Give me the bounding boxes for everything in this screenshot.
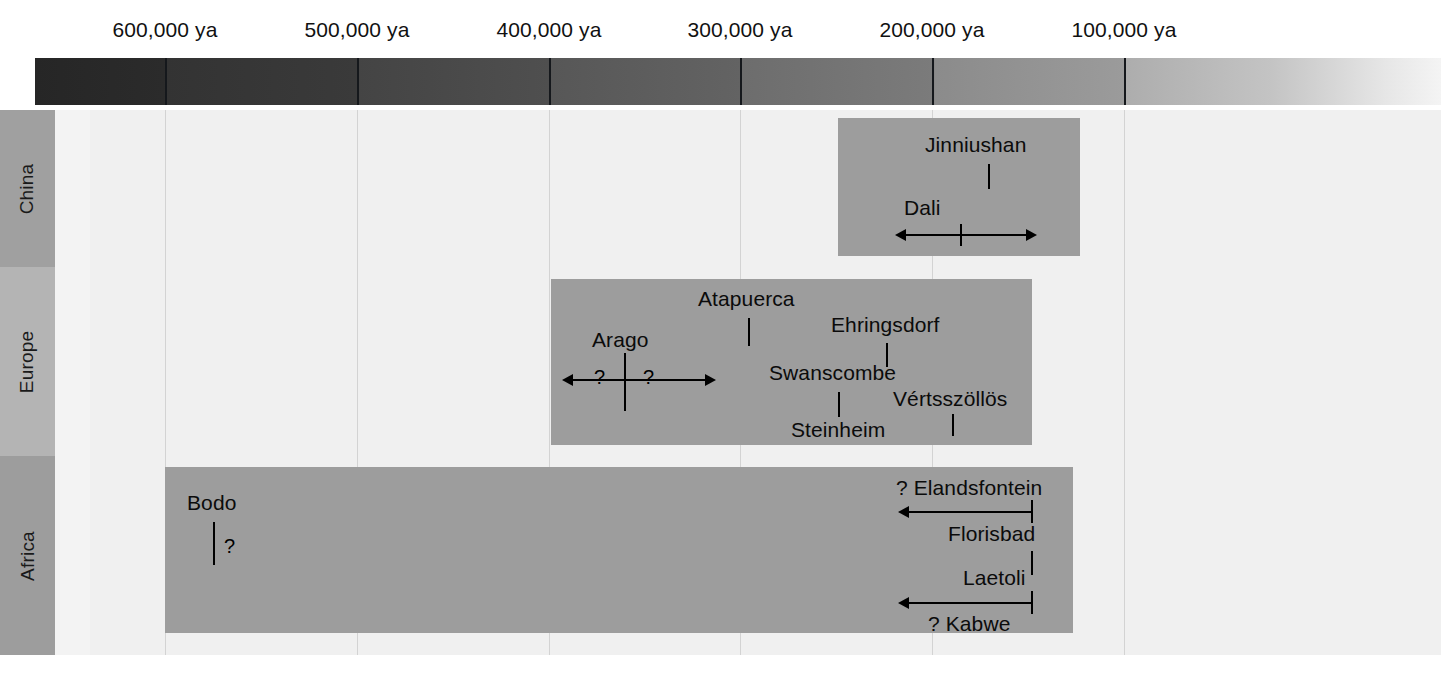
site-label-steinheim: Steinheim <box>791 418 885 442</box>
site-label-vertsszollos: Vértsszöllös <box>893 387 1007 411</box>
gradient-tick-100000 <box>1124 58 1126 105</box>
tick-vertsszollos <box>952 414 954 436</box>
arago-arrow-left-icon <box>562 374 573 386</box>
tick-laetoli <box>1031 591 1033 614</box>
site-label-kabwe: ? Kabwe <box>928 612 1010 636</box>
site-label-bodo: Bodo <box>187 491 236 515</box>
axis-tick-200000: 200,000 ya <box>880 18 985 42</box>
row-label-europe-text: Europe <box>17 330 39 392</box>
row-label-africa-text: Africa <box>17 531 39 581</box>
axis-tick-300000: 300,000 ya <box>688 18 793 42</box>
gradient-tick-200000 <box>932 58 934 105</box>
tick-jinniushan <box>988 164 990 189</box>
elandsfontein-arrow-left-icon <box>898 506 909 518</box>
lane-china <box>90 110 1441 267</box>
arago-question-left: ? <box>594 366 605 389</box>
tick-florisbad <box>1031 551 1033 575</box>
axis-tick-100000: 100,000 ya <box>1072 18 1177 42</box>
bodo-question: ? <box>224 535 235 558</box>
arago-range-line <box>573 379 705 381</box>
gradient-tick-400000 <box>549 58 551 105</box>
site-label-atapuerca: Atapuerca <box>698 287 795 311</box>
laetoli-range-line <box>909 602 1032 604</box>
site-label-arago: Arago <box>592 328 649 352</box>
dali-arrow-right-icon <box>1026 229 1037 241</box>
gradient-tick-300000 <box>740 58 742 105</box>
gradient-tick-600000 <box>165 58 167 105</box>
site-label-swanscombe: Swanscombe <box>769 361 896 385</box>
site-label-ehringsdorf: Ehringsdorf <box>831 313 940 337</box>
gradient-tick-500000 <box>357 58 359 105</box>
arago-question-right: ? <box>643 366 654 389</box>
site-label-dali: Dali <box>904 196 941 220</box>
site-label-elandsfontein: ? Elandsfontein <box>896 476 1042 500</box>
axis-tick-600000: 600,000 ya <box>113 18 218 42</box>
row-label-africa: Africa <box>0 456 55 655</box>
timeline-chart: 600,000 ya 500,000 ya 400,000 ya 300,000… <box>0 0 1456 693</box>
axis-tick-400000: 400,000 ya <box>497 18 602 42</box>
axis-tick-500000: 500,000 ya <box>305 18 410 42</box>
row-label-europe: Europe <box>0 267 55 456</box>
tick-atapuerca <box>748 318 750 346</box>
site-label-laetoli: Laetoli <box>963 566 1026 590</box>
dali-range-line <box>906 234 1026 236</box>
site-label-florisbad: Florisbad <box>948 522 1035 546</box>
tick-arago <box>624 353 626 411</box>
tick-dali <box>960 224 962 246</box>
tick-swanscombe <box>838 392 840 417</box>
row-label-china: China <box>0 110 55 267</box>
dali-arrow-left-icon <box>895 229 906 241</box>
tick-bodo <box>213 522 215 565</box>
tick-elandsfontein <box>1031 500 1033 523</box>
row-label-china-text: China <box>17 163 39 214</box>
time-gradient-bar <box>35 58 1441 105</box>
elandsfontein-range-line <box>909 511 1032 513</box>
axis-tick-labels: 600,000 ya 500,000 ya 400,000 ya 300,000… <box>0 0 1456 56</box>
gridline-100000 <box>1124 110 1125 655</box>
arago-arrow-right-icon <box>705 374 716 386</box>
laetoli-arrow-left-icon <box>898 597 909 609</box>
site-label-jinniushan: Jinniushan <box>925 133 1026 157</box>
